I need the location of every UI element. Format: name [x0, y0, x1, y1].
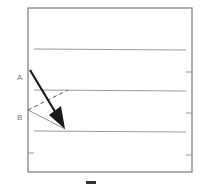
label-a: A	[17, 73, 22, 82]
horizontal-line-2	[34, 90, 186, 91]
arrow-head-icon	[49, 106, 65, 129]
horizontal-line-3	[34, 131, 186, 132]
arrow-shaft	[30, 70, 57, 115]
diagram-canvas	[0, 0, 201, 184]
horizontal-line-1	[34, 49, 186, 50]
label-b: B	[17, 113, 22, 122]
bottom-mark	[86, 181, 96, 184]
